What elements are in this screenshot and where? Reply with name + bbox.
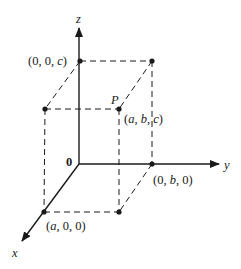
label-a-0-0: (a, 0, 0) (46, 219, 86, 233)
z-axis-label: z (75, 12, 81, 26)
label-p: P (110, 93, 119, 107)
label-0-0-c: (0, 0, c) (28, 54, 67, 68)
coordinate-diagram: z y x 0 (0, 0, c) P (a, b, c) (0, b, 0) … (0, 0, 241, 269)
x-axis-label: x (11, 246, 18, 260)
origin-label: 0 (66, 155, 72, 169)
point-0-0-c (77, 58, 82, 63)
y-axis-label: y (222, 158, 230, 172)
label-0-b-0: (0, b, 0) (153, 173, 193, 187)
point-bottom-front-right (116, 209, 121, 214)
point-top-back-right (149, 58, 154, 63)
point-top-front-left (42, 106, 47, 111)
point-p (116, 106, 121, 111)
label-a-b-c: (a, b, c) (124, 112, 163, 126)
point-0-b-0 (149, 161, 154, 166)
point-a-0-0 (41, 209, 46, 214)
